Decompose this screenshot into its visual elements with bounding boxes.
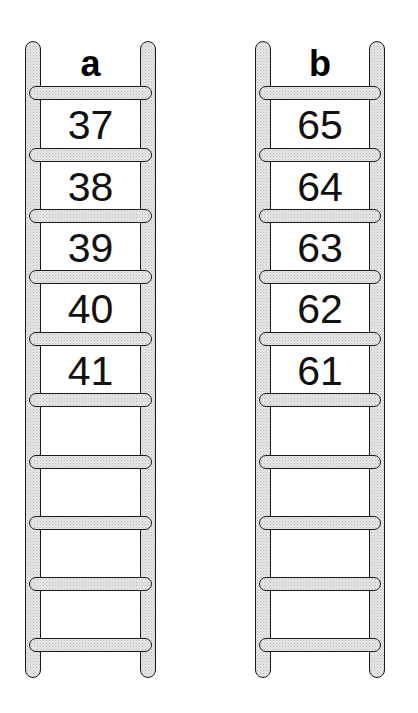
ladder-rung: [29, 86, 152, 100]
ladder-cell-value: 62: [271, 285, 369, 333]
ladder-rung: [259, 270, 381, 284]
ladder-cell-value: 40: [41, 285, 140, 333]
ladder-rung: [259, 148, 381, 162]
ladder-cell-value: 39: [41, 224, 140, 272]
ladder-rung: [259, 455, 381, 469]
ladder-rung: [259, 638, 381, 652]
ladder-rung: [29, 332, 152, 346]
ladder-label-b: b: [271, 44, 369, 84]
ladder-label-a: a: [41, 44, 140, 84]
ladder-rung: [29, 393, 152, 407]
ladder-cell-value: 38: [41, 163, 140, 211]
ladder-cell-value: 61: [271, 347, 369, 395]
ladder-cell-value: 63: [271, 224, 369, 272]
ladder-rung: [29, 516, 152, 530]
ladder-rung: [29, 638, 152, 652]
ladder-rung: [29, 577, 152, 591]
ladder-rung: [259, 393, 381, 407]
ladder-rung: [259, 577, 381, 591]
ladder-cell-value: 41: [41, 347, 140, 395]
ladder-rung: [29, 455, 152, 469]
ladder-rung: [259, 516, 381, 530]
ladder-rung: [259, 332, 381, 346]
ladders-figure: a3738394041b6564636261: [0, 0, 418, 713]
ladder-cell-value: 65: [271, 101, 369, 149]
ladder-cell-value: 64: [271, 163, 369, 211]
ladder-rung: [29, 209, 152, 223]
ladder-rung: [29, 148, 152, 162]
ladder-cell-value: 37: [41, 101, 140, 149]
ladder-rung: [29, 270, 152, 284]
ladder-rung: [259, 209, 381, 223]
ladder-rung: [259, 86, 381, 100]
